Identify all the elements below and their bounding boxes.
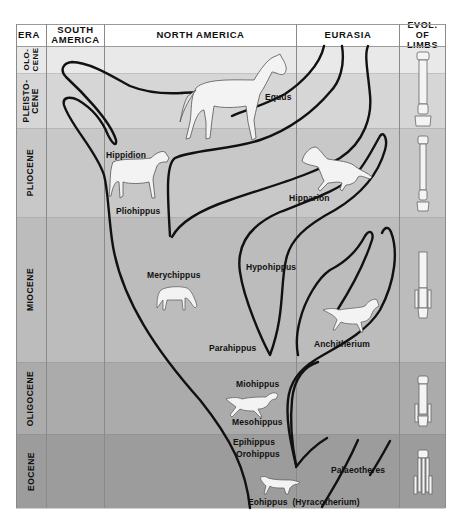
horse-anchitherium-icon	[321, 296, 381, 336]
lineage-mesohippus-v	[296, 438, 327, 467]
label-mesohippus: Mesohippus	[232, 417, 283, 427]
limb-merychippus-icon	[411, 250, 435, 322]
limb-mesohippus-icon	[411, 374, 435, 430]
label-palaeotheres: Palaeotheres	[331, 465, 385, 475]
label-hipparion: Hipparion	[289, 193, 330, 203]
label-parahippus: Parahippus	[209, 343, 256, 353]
label-orohippus: Orohippus	[236, 449, 280, 459]
horse-merychippus-icon	[155, 284, 199, 314]
label-eohippus: Eohippus (Hyracotherium)	[248, 497, 360, 507]
label-hippidion: Hippidion	[106, 150, 146, 160]
limb-eohippus-icon	[410, 448, 436, 504]
label-epihippus: Epihippus	[233, 437, 275, 447]
lineage-anchitherium-inner	[297, 232, 373, 355]
horse-eohippus-icon	[258, 474, 302, 498]
label-merychippus: Merychippus	[147, 270, 201, 280]
limb-equus-icon	[412, 50, 434, 130]
label-hypohippus: Hypohippus	[246, 262, 296, 272]
horse-hipparion-icon	[298, 141, 374, 195]
limb-pliohippus-icon	[414, 134, 432, 214]
horse-mesohippus-icon	[224, 389, 280, 419]
label-equus: Equus	[265, 92, 291, 102]
label-anchitherium: Anchitherium	[314, 339, 370, 349]
horse-evolution-diagram: ERA SOUTH AMERICA NORTH AMERICA EURASIA …	[0, 0, 461, 521]
label-pliohippus: Pliohippus	[116, 206, 160, 216]
label-miohippus: Miohippus	[236, 379, 279, 389]
